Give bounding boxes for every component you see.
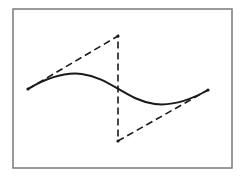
control-point-p3 bbox=[206, 88, 209, 91]
control-point-p0 bbox=[26, 87, 29, 90]
frame-border bbox=[13, 9, 232, 168]
bezier-diagram bbox=[0, 0, 243, 178]
control-point-p1 bbox=[116, 34, 119, 37]
control-point-p2 bbox=[116, 139, 119, 142]
